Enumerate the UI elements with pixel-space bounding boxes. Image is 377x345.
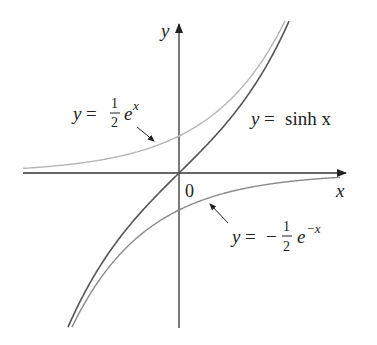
curve-neg-half-exp-neg-x (72, 177, 340, 327)
y-axis-label: y (159, 20, 170, 41)
arrow-to-half-exp (137, 127, 154, 141)
svg-text:−x: −x (306, 221, 321, 236)
svg-text:x: x (132, 98, 139, 113)
svg-text:=: = (86, 103, 97, 124)
svg-text:y: y (249, 108, 260, 129)
svg-text:y: y (230, 226, 241, 247)
sinh-diagram: y x 0 y = 1 2 e x y = sinh x y = − 1 2 e… (0, 0, 377, 345)
origin-label: 0 (185, 181, 194, 201)
svg-text:y: y (71, 103, 82, 124)
label-half-exp: y = 1 2 e x (71, 96, 139, 130)
svg-text:1: 1 (111, 96, 118, 111)
curve-half-exp (23, 21, 285, 169)
svg-text:2: 2 (283, 239, 290, 254)
svg-text:=: = (245, 226, 256, 247)
svg-text:2: 2 (111, 115, 118, 130)
svg-text:e: e (297, 226, 305, 247)
arrow-to-neg-half-exp (210, 204, 228, 223)
x-axis-label: x (335, 180, 345, 201)
label-neg-half-exp: y = − 1 2 e −x (230, 219, 321, 254)
svg-text:−: − (266, 226, 277, 247)
svg-text:e: e (124, 103, 132, 124)
svg-text:1: 1 (283, 219, 290, 234)
svg-text:sinh x: sinh x (285, 108, 331, 129)
svg-text:=: = (264, 108, 275, 129)
label-sinh: y = sinh x (249, 108, 331, 129)
